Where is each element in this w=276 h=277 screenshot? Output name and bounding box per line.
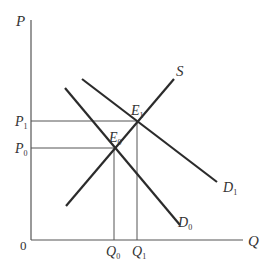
x-axis-label: Q <box>248 233 259 249</box>
demand-curve-d1 <box>82 79 217 182</box>
d1-label: D1 <box>222 180 237 197</box>
e1-label: E1 <box>130 103 144 120</box>
q0-label: Q0 <box>106 244 120 261</box>
d0-label: D0 <box>177 215 192 232</box>
p1-label: P1 <box>14 114 28 131</box>
p0-label: P0 <box>14 141 28 158</box>
e0-label: E0 <box>108 130 122 147</box>
supply-label: S <box>176 63 184 79</box>
origin-label: 0 <box>20 238 27 253</box>
y-axis-label: P <box>15 13 25 29</box>
q1-label: Q1 <box>132 244 146 261</box>
supply-demand-diagram: P Q 0 P1 P0 Q0 Q1 S D0 D1 E0 E1 <box>0 0 276 277</box>
